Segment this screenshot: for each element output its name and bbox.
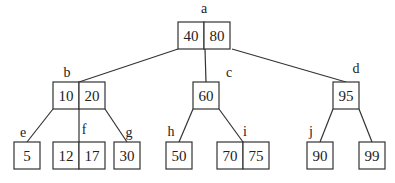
edge-d-j: [320, 109, 333, 142]
key-value: 70: [223, 148, 238, 164]
key-value: 20: [85, 88, 100, 104]
edge-d-k: [359, 109, 372, 142]
tree-node-k: 99: [359, 142, 385, 169]
node-label: e: [20, 125, 26, 140]
node-label: a: [201, 1, 208, 16]
edge-a-d: [232, 49, 346, 82]
node-label: b: [64, 65, 71, 80]
node-label: c: [226, 65, 232, 80]
key-value: 10: [59, 88, 74, 104]
tree-node-i: 7075i: [217, 124, 269, 169]
key-value: 40: [184, 28, 199, 44]
edge-b-e: [27, 109, 53, 142]
tree-svg: 4080a1020b60c95d5e1217f30g50h7075i90j99: [0, 0, 395, 183]
tree-node-c: 60c: [193, 65, 232, 109]
node-label: g: [126, 125, 133, 140]
key-value: 95: [339, 88, 354, 104]
key-value: 99: [365, 148, 380, 164]
edge-a-c: [205, 49, 206, 82]
key-value: 30: [120, 148, 135, 164]
tree-node-b: 1020b: [53, 65, 105, 109]
b-tree-diagram: 4080a1020b60c95d5e1217f30g50h7075i90j99: [0, 0, 395, 183]
node-label: h: [168, 124, 175, 139]
tree-node-e: 5e: [14, 125, 40, 169]
tree-node-a: 4080a: [178, 1, 230, 49]
key-value: 75: [249, 148, 264, 164]
tree-node-d: 95d: [333, 61, 360, 109]
tree-node-j: 90j: [307, 124, 333, 169]
node-label: f: [82, 122, 87, 137]
key-value: 12: [59, 148, 74, 164]
edge-c-h: [179, 109, 193, 142]
node-label: d: [353, 61, 360, 76]
edge-b-g: [105, 109, 127, 142]
node-label: j: [308, 124, 313, 139]
key-value: 5: [23, 148, 31, 164]
key-value: 17: [85, 148, 101, 164]
edge-a-b: [79, 49, 178, 82]
key-value: 80: [210, 28, 225, 44]
tree-node-g: 30g: [114, 125, 140, 169]
node-label: i: [243, 124, 247, 139]
key-value: 90: [313, 148, 328, 164]
key-value: 50: [172, 148, 187, 164]
key-value: 60: [199, 88, 214, 104]
edge-c-i: [219, 109, 243, 142]
tree-node-h: 50h: [166, 124, 192, 169]
